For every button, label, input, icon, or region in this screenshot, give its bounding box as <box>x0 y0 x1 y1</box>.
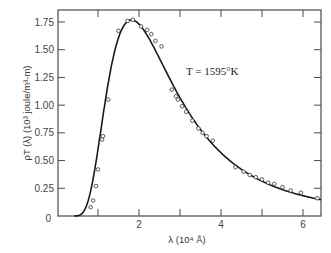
data-point <box>197 127 201 131</box>
data-point <box>191 119 195 123</box>
data-point <box>266 181 270 185</box>
data-point <box>248 173 252 177</box>
x-tick-label: 6 <box>300 219 306 230</box>
data-point <box>106 98 110 102</box>
temperature-annotation: T = 1595°K <box>186 65 239 77</box>
y-axis-ticks: 00.250.500.751.001.251.501.75 <box>35 17 321 225</box>
y-tick-label: 0 <box>45 213 51 224</box>
data-point <box>91 199 95 203</box>
data-point <box>96 168 100 172</box>
data-point <box>289 189 293 193</box>
data-point <box>273 182 277 186</box>
y-tick-label: 1.50 <box>35 44 55 55</box>
data-point <box>176 98 180 102</box>
data-point <box>254 175 258 179</box>
y-tick-label: 1.25 <box>35 72 55 83</box>
planck-spectrum-chart: 00.250.500.751.001.251.501.75 246 T = 15… <box>0 0 331 253</box>
data-point <box>89 205 93 209</box>
y-tick-label: 0.25 <box>35 183 55 194</box>
data-point <box>154 39 158 43</box>
y-tick-label: 0.50 <box>35 155 55 166</box>
y-tick-label: 0.75 <box>35 127 55 138</box>
data-point <box>126 19 130 23</box>
x-tick-label: 4 <box>218 219 224 230</box>
data-point <box>281 185 285 189</box>
data-point <box>170 88 174 92</box>
data-point <box>260 178 264 182</box>
data-point <box>184 110 188 114</box>
x-axis-ticks: 246 <box>98 10 306 230</box>
y-tick-label: 1.00 <box>35 100 55 111</box>
y-axis-title: ρT (λ) (10³ joule/m³-m) <box>21 66 32 161</box>
data-point <box>117 29 121 33</box>
data-point <box>234 165 238 169</box>
data-point <box>174 94 178 98</box>
data-point <box>145 28 149 32</box>
data-point <box>205 134 209 138</box>
data-point <box>131 18 135 22</box>
data-points <box>89 18 319 209</box>
x-axis-title: λ (10⁴ Å) <box>168 234 205 245</box>
data-point <box>316 196 320 200</box>
y-tick-label: 1.75 <box>35 17 55 28</box>
data-point <box>101 134 105 138</box>
data-point <box>242 170 246 174</box>
data-point <box>150 32 154 36</box>
data-point <box>94 184 98 188</box>
data-point <box>160 45 164 49</box>
data-point <box>139 25 143 29</box>
data-point <box>211 139 215 143</box>
data-point <box>180 104 184 108</box>
data-point <box>201 131 205 135</box>
x-tick-label: 2 <box>136 219 142 230</box>
data-point <box>299 191 303 195</box>
